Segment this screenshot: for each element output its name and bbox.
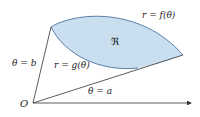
polar-region-diagram: r = f(θ) r = g(θ) θ = b θ = a O ℜ <box>0 0 200 117</box>
label-origin: O <box>20 98 28 109</box>
label-lower-curve: r = g(θ) <box>54 60 90 70</box>
label-upper-curve: r = f(θ) <box>142 10 176 20</box>
label-ray-b: θ = b <box>12 58 37 68</box>
label-region: ℜ <box>111 36 120 47</box>
label-ray-a: θ = a <box>88 86 112 96</box>
